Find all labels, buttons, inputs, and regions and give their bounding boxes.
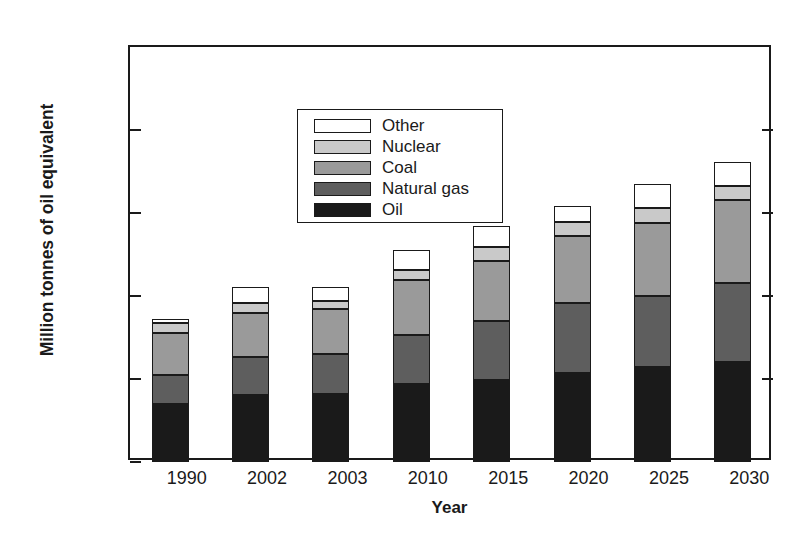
legend-swatch-oil — [314, 203, 371, 217]
x-tick-label-1990: 1990 — [142, 466, 232, 490]
bar-segment-nuclear-2015 — [473, 247, 510, 261]
bar-segment-natural-gas-2020 — [554, 303, 591, 373]
x-axis-title: Year — [128, 498, 771, 518]
bar-segment-oil-2015 — [473, 380, 510, 462]
plot-area: 0500010 00015 00020 00025 000 Other Nucl… — [128, 45, 771, 460]
bar-segment-natural-gas-2015 — [473, 321, 510, 380]
bar-segment-oil-2010 — [393, 384, 430, 462]
x-tick-label-2010: 2010 — [383, 466, 473, 490]
bar-segment-other-2002 — [232, 287, 269, 304]
legend-item-nuclear: Nuclear — [314, 136, 502, 157]
bar-segment-coal-2015 — [473, 261, 510, 321]
legend-swatch-coal — [314, 161, 371, 175]
legend-swatch-other — [314, 119, 371, 133]
bar-segment-coal-2030 — [714, 200, 751, 283]
bar-segment-natural-gas-2002 — [232, 357, 269, 395]
legend-swatch-nuclear — [314, 140, 371, 154]
stacked-bar-chart: Million tonnes of oil equivalent 0500010… — [0, 0, 806, 546]
bar-segment-natural-gas-2003 — [312, 354, 349, 394]
bar-segment-natural-gas-2010 — [393, 335, 430, 384]
bar-segment-coal-1990 — [152, 333, 189, 375]
x-tick-label-2025: 2025 — [624, 466, 714, 490]
bar-segment-nuclear-1990 — [152, 323, 189, 332]
legend: Other Nuclear Coal Natural gas Oil — [297, 109, 503, 223]
x-tick-label-2015: 2015 — [463, 466, 553, 490]
bar-segment-other-2025 — [634, 184, 671, 208]
bar-segment-nuclear-2002 — [232, 303, 269, 313]
legend-label-coal: Coal — [382, 157, 417, 178]
legend-item-coal: Coal — [314, 157, 502, 178]
bar-segment-nuclear-2010 — [393, 270, 430, 280]
legend-swatch-natural-gas — [314, 182, 371, 196]
bar-segment-other-2003 — [312, 287, 349, 301]
bar-segment-coal-2025 — [634, 223, 671, 296]
x-tick-label-2030: 2030 — [704, 466, 794, 490]
bar-segment-oil-2020 — [554, 373, 591, 462]
bar-segment-nuclear-2025 — [634, 208, 671, 223]
bar-segment-oil-2030 — [714, 362, 751, 462]
x-tick-label-2020: 2020 — [544, 466, 634, 490]
bar-segment-natural-gas-2025 — [634, 296, 671, 367]
bar-segment-nuclear-2003 — [312, 301, 349, 309]
bar-segment-other-2020 — [554, 206, 591, 223]
x-tick-label-2003: 2003 — [302, 466, 392, 490]
legend-label-other: Other — [382, 115, 425, 136]
bar-segment-coal-2003 — [312, 309, 349, 354]
bar-segment-coal-2020 — [554, 236, 591, 303]
legend-label-oil: Oil — [382, 199, 403, 220]
bar-segment-coal-2002 — [232, 313, 269, 356]
bar-segment-nuclear-2030 — [714, 186, 751, 200]
legend-item-natural-gas: Natural gas — [314, 178, 502, 199]
legend-label-nuclear: Nuclear — [382, 136, 441, 157]
bar-segment-other-2015 — [473, 226, 510, 247]
bar-segment-oil-2002 — [232, 395, 269, 462]
bar-segment-oil-2025 — [634, 367, 671, 462]
legend-label-natural-gas: Natural gas — [382, 178, 469, 199]
bar-segment-other-2010 — [393, 250, 430, 271]
bar-segment-coal-2010 — [393, 280, 430, 335]
bar-segment-other-2030 — [714, 162, 751, 186]
bar-segment-other-1990 — [152, 319, 189, 323]
bar-segment-natural-gas-1990 — [152, 375, 189, 404]
y-axis-title: Million tonnes of oil equivalent — [34, 65, 60, 395]
bar-segment-natural-gas-2030 — [714, 283, 751, 363]
x-tick-label-2002: 2002 — [222, 466, 312, 490]
bar-segment-oil-2003 — [312, 394, 349, 462]
bar-segment-oil-1990 — [152, 404, 189, 462]
legend-item-oil: Oil — [314, 199, 502, 220]
bar-segment-nuclear-2020 — [554, 222, 591, 236]
legend-item-other: Other — [314, 115, 502, 136]
